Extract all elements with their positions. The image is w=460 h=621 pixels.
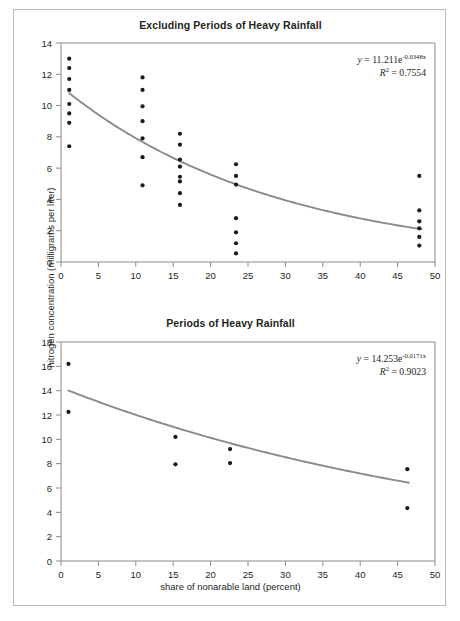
data-point — [173, 462, 177, 466]
data-point — [140, 119, 144, 123]
data-point — [228, 447, 232, 451]
trendline-equation-annotation: y = 11.211e-0.0348x — [357, 53, 427, 65]
y-tick-label: 2 — [47, 531, 52, 542]
x-tick-label: 25 — [243, 569, 254, 580]
x-axis-label: share of nonarable land (percent) — [14, 581, 447, 592]
x-tick-label: 40 — [355, 270, 366, 281]
x-tick-label: 25 — [243, 270, 254, 281]
data-point — [234, 241, 238, 245]
y-tick-label: 16 — [41, 361, 52, 372]
data-point — [178, 164, 182, 168]
data-point — [178, 157, 182, 161]
y-tick-label: 0 — [47, 556, 52, 567]
data-point — [234, 162, 238, 166]
x-tick-label: 15 — [168, 270, 179, 281]
x-tick-label: 10 — [131, 270, 142, 281]
x-tick-label: 5 — [96, 569, 101, 580]
data-point — [173, 435, 177, 439]
data-point — [140, 136, 144, 140]
data-point — [67, 111, 71, 115]
x-tick-label: 10 — [131, 569, 142, 580]
x-tick-label: 30 — [280, 569, 291, 580]
data-point — [67, 66, 71, 70]
x-tick-label: 50 — [430, 569, 441, 580]
data-point — [140, 75, 144, 79]
data-point — [417, 174, 421, 178]
x-tick-label: 35 — [318, 569, 329, 580]
data-point — [66, 362, 70, 366]
data-point — [67, 144, 71, 148]
y-tick-label: 14 — [41, 38, 52, 49]
data-point — [405, 467, 409, 471]
y-tick-label: 4 — [47, 507, 52, 518]
figure-frame: nitrogen concentration (milligrams per l… — [13, 9, 446, 606]
data-point — [140, 183, 144, 187]
chart-panel-periods-heavy-rainfall: Periods of Heavy Rainfall 05101520253035… — [14, 310, 447, 606]
data-point — [178, 175, 182, 179]
data-point — [417, 208, 421, 212]
x-tick-label: 40 — [355, 569, 366, 580]
y-tick-label: 6 — [47, 483, 52, 494]
data-point — [140, 88, 144, 92]
y-tick-label: 8 — [47, 131, 52, 142]
data-point — [417, 226, 421, 230]
y-tick-label: 10 — [41, 100, 52, 111]
r-squared-annotation: R2 = 0.7554 — [379, 66, 426, 78]
y-tick-label: 4 — [47, 194, 52, 205]
data-point — [417, 235, 421, 239]
x-tick-label: 35 — [318, 270, 329, 281]
data-point — [228, 461, 232, 465]
x-tick-label: 30 — [280, 270, 291, 281]
x-tick-label: 0 — [58, 569, 63, 580]
data-point — [140, 155, 144, 159]
y-tick-label: 2 — [47, 225, 52, 236]
data-point — [140, 104, 144, 108]
x-tick-label: 5 — [96, 270, 101, 281]
x-tick-label: 20 — [205, 270, 216, 281]
data-point — [178, 191, 182, 195]
data-point — [417, 243, 421, 247]
y-tick-label: 8 — [47, 458, 52, 469]
r-squared-annotation: R2 = 0.9023 — [379, 365, 426, 377]
y-tick-label: 6 — [47, 163, 52, 174]
scatter-plot-top: 0510152025303540455002468101214y = 11.21… — [14, 10, 447, 310]
data-point — [234, 251, 238, 255]
data-point — [234, 216, 238, 220]
x-tick-label: 45 — [392, 569, 403, 580]
data-point — [67, 77, 71, 81]
y-tick-label: 12 — [41, 69, 52, 80]
y-tick-label: 12 — [41, 410, 52, 421]
trendline-exponential-fit — [69, 93, 421, 229]
data-point — [178, 132, 182, 136]
x-tick-label: 50 — [430, 270, 441, 281]
data-point — [66, 410, 70, 414]
data-point — [417, 219, 421, 223]
data-point — [67, 57, 71, 61]
data-point — [67, 88, 71, 92]
trendline-exponential-fit — [68, 391, 408, 483]
data-point — [234, 182, 238, 186]
y-tick-label: 18 — [41, 337, 52, 348]
trendline-equation-annotation: y = 14.253e-0.0171x — [356, 352, 427, 364]
x-tick-label: 15 — [168, 569, 179, 580]
data-point — [234, 174, 238, 178]
chart-panel-excluding-heavy-rainfall: Excluding Periods of Heavy Rainfall 0510… — [14, 10, 447, 310]
y-tick-label: 14 — [41, 385, 52, 396]
data-point — [67, 102, 71, 106]
data-point — [234, 230, 238, 234]
y-tick-label: 10 — [41, 434, 52, 445]
data-point — [405, 506, 409, 510]
data-point — [178, 143, 182, 147]
x-tick-label: 0 — [58, 270, 63, 281]
data-point — [178, 179, 182, 183]
scatter-plot-bottom: 05101520253035404550024681012141618y = 1… — [14, 310, 447, 610]
data-point — [178, 203, 182, 207]
x-tick-label: 45 — [392, 270, 403, 281]
x-tick-label: 20 — [205, 569, 216, 580]
data-point — [67, 121, 71, 125]
y-tick-label: 0 — [47, 257, 52, 268]
